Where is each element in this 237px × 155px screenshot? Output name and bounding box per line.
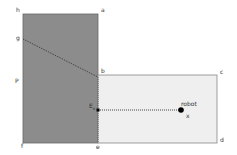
label-c: c — [220, 68, 223, 75]
dark-region — [23, 14, 98, 143]
label-d: d — [220, 136, 224, 143]
light-region — [98, 75, 217, 143]
label-b: b — [101, 67, 105, 74]
label-x: x — [186, 112, 190, 119]
label-robot: robot — [181, 100, 197, 107]
diagram-canvas: h a g b c P Ex robot x f e d — [0, 0, 237, 155]
robot-marker — [178, 107, 184, 113]
label-p: P — [15, 77, 19, 84]
label-g: g — [16, 34, 20, 42]
e-point-marker — [97, 109, 100, 112]
label-a: a — [101, 6, 105, 13]
label-e: e — [96, 143, 100, 150]
label-h: h — [16, 6, 20, 13]
